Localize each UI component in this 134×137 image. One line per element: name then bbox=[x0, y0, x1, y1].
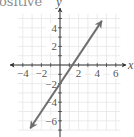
y-tick-label: 4 bbox=[52, 22, 58, 34]
y-tick-label: 2 bbox=[52, 40, 58, 52]
coordinate-plane-chart: xy −4−224642−2−4−6 bbox=[0, 0, 134, 137]
y-tick-label: −2 bbox=[45, 78, 57, 90]
y-axis-label: y bbox=[55, 0, 62, 9]
y-tick-label: −6 bbox=[45, 115, 57, 127]
x-tick-label: 2 bbox=[76, 67, 82, 79]
x-tick-label: −4 bbox=[17, 67, 29, 79]
x-tick-label: 4 bbox=[94, 67, 100, 79]
grid-lines bbox=[18, 14, 120, 130]
x-tick-label: 6 bbox=[113, 67, 119, 79]
x-axis-label: x bbox=[127, 58, 134, 72]
